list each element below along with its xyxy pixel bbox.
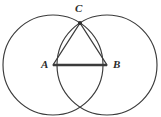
geometry-figure: A B C — [0, 0, 161, 117]
point-label-a: A — [41, 59, 48, 70]
vertex-point-c — [78, 21, 82, 25]
point-label-b: B — [113, 59, 120, 70]
geometry-canvas — [0, 0, 161, 117]
point-label-c: C — [75, 3, 82, 14]
segment-ac — [53, 23, 80, 65]
segment-bc — [80, 23, 107, 65]
